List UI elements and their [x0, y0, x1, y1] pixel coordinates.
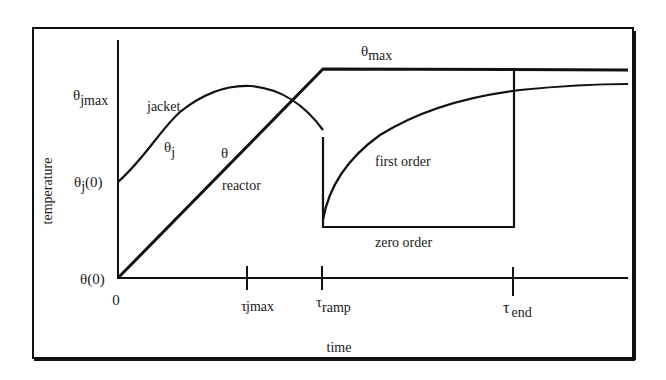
x-axis-label: time	[327, 340, 352, 355]
reactor-label: reactor	[222, 178, 261, 193]
tau-end-label: τend	[503, 299, 532, 320]
tau-jmax-label: τjmax	[241, 298, 274, 314]
diagram-canvas: temperature time 0 θ(0) θj(0) θjmax τjma…	[0, 0, 666, 380]
theta-j-label: θj	[164, 139, 175, 160]
zero-order-curve	[323, 69, 514, 227]
y-axis-label: temperature	[40, 158, 55, 225]
first-order-curve	[323, 84, 628, 220]
zero-order-label: zero order	[375, 235, 432, 250]
jacket-label: jacket	[146, 99, 181, 114]
first-order-label: first order	[375, 154, 431, 169]
thetaj0-label: θj(0)	[74, 174, 103, 194]
reactor-temperature-curve	[118, 69, 628, 278]
tau-ramp-label: τramp	[316, 294, 351, 315]
theta-max-label: θmax	[361, 43, 392, 63]
theta0-label: θ(0)	[80, 271, 105, 288]
theta-label: θ	[221, 145, 228, 161]
thetajmax-label: θjmax	[73, 87, 108, 108]
origin-label: 0	[112, 292, 120, 308]
axes	[117, 40, 628, 296]
temperature-profile-diagram: temperature time 0 θ(0) θj(0) θjmax τjma…	[0, 0, 666, 380]
